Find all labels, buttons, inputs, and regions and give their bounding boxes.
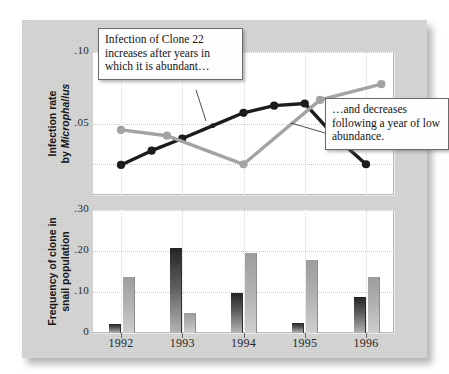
- data-point-marker: [117, 161, 125, 169]
- annotation-callout-decrease: …and decreases following a year of low a…: [325, 98, 449, 150]
- data-point-marker: [362, 160, 370, 168]
- data-point-marker: [301, 99, 309, 107]
- data-point-marker: [163, 132, 171, 140]
- figure-root: Infection rate by Microphallus Frequency…: [0, 0, 449, 374]
- data-point-marker: [239, 160, 247, 168]
- data-point-marker: [148, 147, 156, 155]
- data-point-marker: [210, 123, 215, 128]
- callout-2-leader: [291, 123, 325, 133]
- data-point-marker: [377, 80, 385, 88]
- data-point-marker: [316, 96, 324, 104]
- annotation-callout-increase: Infection of Clone 22 increases after ye…: [98, 28, 243, 80]
- data-point-marker: [117, 126, 125, 134]
- data-point-marker: [270, 102, 278, 110]
- data-point-marker: [239, 109, 247, 117]
- callout-1-leader: [196, 90, 206, 121]
